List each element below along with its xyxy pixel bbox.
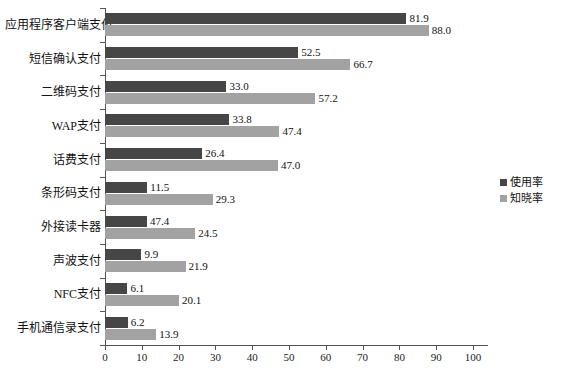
bar-value-usage: 6.2 [131, 317, 145, 328]
bar-value-usage: 26.4 [205, 148, 224, 159]
category-label: NFC支付 [5, 287, 105, 301]
legend-label-usage: 使用率 [510, 176, 543, 188]
bar-awareness [105, 160, 278, 171]
y-axis-tick [100, 143, 105, 144]
bar-value-awareness: 24.5 [198, 228, 217, 239]
bar-usage [105, 47, 298, 58]
x-axis-tick-label: 0 [90, 351, 120, 364]
x-axis-tick [252, 345, 253, 350]
x-axis-tick-label: 100 [458, 351, 488, 364]
y-axis-tick [100, 244, 105, 245]
bar-awareness [105, 25, 429, 36]
legend-item-awareness: 知晓率 [500, 190, 558, 206]
x-axis-tick [142, 345, 143, 350]
bar-value-usage: 33.0 [229, 81, 248, 92]
bar-awareness [105, 126, 279, 137]
bar-awareness [105, 194, 213, 205]
x-axis-tick [105, 345, 106, 350]
bar-awareness [105, 228, 195, 239]
bar-value-awareness: 88.0 [432, 25, 451, 36]
category-label: WAP支付 [5, 119, 105, 133]
bar-usage [105, 148, 202, 159]
x-axis-tick [473, 345, 474, 350]
bar-value-usage: 47.4 [150, 216, 169, 227]
bar-value-usage: 81.9 [409, 13, 428, 24]
legend-swatch-usage-icon [500, 179, 507, 186]
bar-value-awareness: 21.9 [189, 261, 208, 272]
bar-usage [105, 216, 147, 227]
y-axis-tick [100, 278, 105, 279]
bar-usage [105, 317, 128, 328]
category-label: 外接读卡器 [5, 220, 105, 234]
bar-value-awareness: 47.4 [282, 126, 301, 137]
legend-item-usage: 使用率 [500, 174, 558, 190]
y-axis-tick [100, 177, 105, 178]
y-axis-tick [100, 75, 105, 76]
x-axis-tick-label: 50 [274, 351, 304, 364]
x-axis-tick [289, 345, 290, 350]
category-label: 短信确认支付 [5, 52, 105, 66]
bar-value-usage: 9.9 [144, 249, 158, 260]
bar-value-awareness: 13.9 [159, 329, 178, 340]
bar-value-awareness: 66.7 [353, 59, 372, 70]
bar-usage [105, 114, 229, 125]
x-axis-tick-label: 70 [348, 351, 378, 364]
y-axis-tick [100, 311, 105, 312]
legend-label-awareness: 知晓率 [510, 192, 543, 204]
bar-chart: 应用程序客户端支付短信确认支付二维码支付WAP支付话费支付条形码支付外接读卡器声… [0, 0, 561, 384]
x-axis-tick-label: 10 [127, 351, 157, 364]
category-label: 手机通信录支付 [5, 321, 105, 335]
x-axis-tick [436, 345, 437, 350]
x-axis-tick-label: 40 [237, 351, 267, 364]
bar-value-usage: 52.5 [301, 47, 320, 58]
bar-awareness [105, 59, 350, 70]
x-axis-tick [179, 345, 180, 350]
bar-awareness [105, 93, 315, 104]
bar-usage [105, 13, 406, 24]
x-axis-tick-label: 20 [164, 351, 194, 364]
x-axis-tick [363, 345, 364, 350]
bar-value-awareness: 57.2 [318, 93, 337, 104]
bar-value-usage: 11.5 [150, 182, 169, 193]
bar-value-awareness: 20.1 [182, 295, 201, 306]
y-axis-tick [100, 109, 105, 110]
y-axis-tick [100, 210, 105, 211]
legend-swatch-awareness-icon [500, 195, 507, 202]
category-label: 应用程序客户端支付 [5, 18, 105, 32]
category-axis-labels: 应用程序客户端支付短信确认支付二维码支付WAP支付话费支付条形码支付外接读卡器声… [0, 0, 105, 384]
bar-usage [105, 283, 127, 294]
category-label: 条形码支付 [5, 186, 105, 200]
category-label: 话费支付 [5, 153, 105, 167]
bar-awareness [105, 295, 179, 306]
bar-usage [105, 249, 141, 260]
category-label: 声波支付 [5, 254, 105, 268]
bar-awareness [105, 261, 186, 272]
category-label: 二维码支付 [5, 85, 105, 99]
x-axis-tick [326, 345, 327, 350]
x-axis-tick-label: 90 [421, 351, 451, 364]
chart-legend: 使用率 知晓率 [500, 174, 558, 206]
x-axis-tick-label: 80 [384, 351, 414, 364]
x-axis-tick-label: 60 [311, 351, 341, 364]
bar-value-awareness: 29.3 [216, 194, 235, 205]
bar-value-usage: 33.8 [232, 114, 251, 125]
plot-area: 81.988.052.566.733.057.233.847.426.447.0… [105, 8, 487, 345]
x-axis-tick [399, 345, 400, 350]
bar-usage [105, 81, 226, 92]
bar-awareness [105, 329, 156, 340]
y-axis-tick [100, 42, 105, 43]
bar-value-usage: 6.1 [130, 283, 144, 294]
bar-usage [105, 182, 147, 193]
x-axis-line [105, 345, 488, 346]
y-axis-tick [100, 345, 105, 346]
y-axis-tick [100, 8, 105, 9]
bar-value-awareness: 47.0 [281, 160, 300, 171]
x-axis-tick [215, 345, 216, 350]
x-axis-tick-label: 30 [200, 351, 230, 364]
